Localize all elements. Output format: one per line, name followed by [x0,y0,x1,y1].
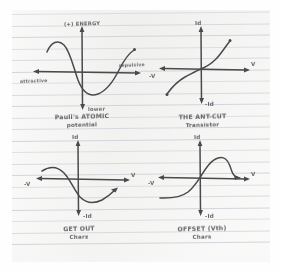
y-axis-arrow-down [76,210,81,216]
ruled-paper-sheet: (+) ENERGY lower attractive repulsive Pa… [12,10,270,262]
plot2-y-top-label: Id [195,21,202,27]
x-axis-arrow-left [33,69,39,74]
curve-endpoint-dot-bottom [166,93,169,96]
plot2-x-left-label: -V [149,74,156,80]
plot2-y-bottom-label: -Id [205,102,214,108]
x-axis-arrow-left [36,176,42,181]
plot4-x-left-label: -V [148,181,155,187]
x-axis-arrow-right [244,177,250,182]
curve-endpoint-dot-top [229,39,232,42]
plot3-x-right-label: V [131,173,136,179]
y-axis [78,144,79,212]
y-axis-arrow-up [199,26,204,32]
y-axis-arrow-down [198,210,203,216]
y-axis-arrow-down [80,104,85,110]
x-axis-arrow-right [244,68,250,73]
x-axis [163,69,246,71]
cubic-transfer-curve [167,41,230,94]
y-axis-arrow-up [76,140,81,146]
x-axis-arrow-left [159,66,165,71]
x-axis [37,72,137,74]
y-axis-arrow-up [198,140,203,146]
plot2-x-right-label: V [251,62,256,68]
plot-offset-chars: Id -Id -V V OFFSET (Vth) Chars [148,132,270,242]
plot1-y-top-label: (+) ENERGY [64,21,100,27]
notebook-scan: (+) ENERGY lower attractive repulsive Pa… [0,0,281,271]
y-axis [82,30,83,106]
plot-potential-energy: (+) ENERGY lower attractive repulsive Pa… [18,14,144,132]
curve-endpoint-dot [133,48,136,51]
rule-line [12,242,270,245]
y-axis [201,30,202,100]
y-axis-arrow-down [199,98,204,104]
x-axis-arrow-right [124,178,130,183]
x-axis [40,179,126,181]
x-axis-arrow-left [158,175,164,180]
x-axis [162,178,246,180]
plot1-x-left-label: attractive [20,79,48,85]
y-axis-arrow-up [80,26,85,32]
plot3-x-left-label: -V [24,182,31,188]
plot1-x-right-label: repulsive [119,63,145,68]
plot4-y-bottom-label: -Id [205,214,214,220]
plot-cutoff-transistor: Id -Id -V V THE ANT-CUT Transistor [145,14,265,132]
plot3-y-top-label: Id [72,135,79,141]
x-axis-arrow-right [135,71,141,76]
plot4-y-top-label: Id [194,135,201,141]
plot3-y-bottom-label: -Id [83,214,92,220]
curve-arrowhead [111,188,118,193]
plot4-x-right-label: V [251,172,256,178]
plot-get-out: Id -Id -V V GET OUT Charz [20,132,146,242]
